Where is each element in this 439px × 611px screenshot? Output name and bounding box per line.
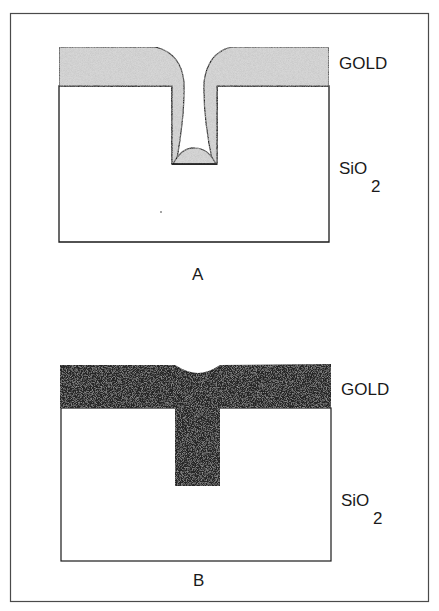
panel-a-gold-label: GOLD — [339, 55, 387, 72]
panel-b — [60, 364, 331, 561]
panel-a-oxide-label: SiO — [339, 160, 367, 177]
panel-b-oxide-subscript: 2 — [373, 510, 382, 527]
panel-b-oxide-label: SiO — [341, 492, 369, 509]
panel-a-speck — [160, 211, 162, 213]
panel-a-caption: A — [192, 266, 203, 283]
panel-a-oxide-subscript: 2 — [371, 178, 380, 195]
panel-b-caption: B — [193, 572, 204, 589]
panel-b-gold-label: GOLD — [341, 381, 389, 398]
